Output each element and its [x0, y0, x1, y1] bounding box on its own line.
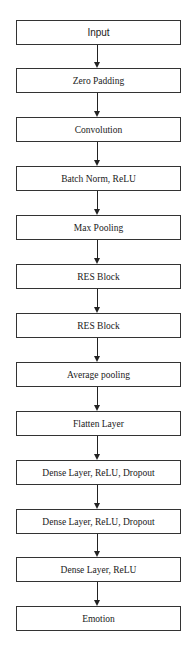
node-label: Batch Norm, ReLU — [61, 174, 136, 184]
node-label: Dense Layer, ReLU, Dropout — [42, 517, 154, 527]
node-dense-relu-dropout-1: Dense Layer, ReLU, Dropout — [16, 460, 181, 485]
node-flatten-layer: Flatten Layer — [16, 411, 181, 436]
node-label: Convolution — [75, 125, 123, 135]
node-label: Flatten Layer — [73, 419, 124, 429]
cnn-architecture-flowchart: Input Zero Padding Convolution Batch Nor… — [0, 0, 191, 646]
node-average-pooling: Average pooling — [16, 362, 181, 387]
node-label: Zero Padding — [73, 76, 124, 86]
node-input: Input — [16, 20, 181, 45]
arrow-down-icon — [97, 582, 99, 606]
arrow-down-icon — [97, 191, 99, 215]
node-label: Average pooling — [67, 370, 130, 380]
arrow-down-icon — [97, 387, 99, 411]
node-max-pooling: Max Pooling — [16, 215, 181, 240]
node-res-block-1: RES Block — [16, 264, 181, 289]
node-label: RES Block — [77, 321, 120, 331]
node-dense-relu: Dense Layer, ReLU — [16, 557, 181, 582]
arrow-down-icon — [97, 289, 99, 313]
node-label: Emotion — [82, 614, 115, 624]
node-res-block-2: RES Block — [16, 313, 181, 338]
node-dense-relu-dropout-2: Dense Layer, ReLU, Dropout — [16, 509, 181, 534]
node-label: Max Pooling — [74, 223, 123, 233]
node-label: Dense Layer, ReLU, Dropout — [42, 468, 154, 478]
arrow-down-icon — [97, 45, 99, 68]
arrow-down-icon — [97, 93, 99, 117]
node-label: Dense Layer, ReLU — [61, 565, 137, 575]
arrow-down-icon — [97, 534, 99, 557]
arrow-down-icon — [97, 240, 99, 264]
arrow-down-icon — [97, 485, 99, 509]
arrow-down-icon — [97, 338, 99, 362]
node-batch-norm-relu: Batch Norm, ReLU — [16, 166, 181, 191]
node-label: RES Block — [77, 272, 120, 282]
node-label: Input — [87, 27, 109, 38]
node-convolution: Convolution — [16, 117, 181, 142]
node-emotion: Emotion — [16, 606, 181, 631]
node-zero-padding: Zero Padding — [16, 68, 181, 93]
arrow-down-icon — [97, 436, 99, 460]
arrow-down-icon — [97, 142, 99, 166]
